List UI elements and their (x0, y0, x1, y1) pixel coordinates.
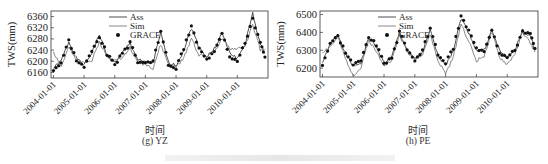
grace-point (72, 51, 75, 54)
grace-point (243, 42, 246, 45)
grace-point (113, 63, 116, 66)
grace-point (408, 51, 411, 54)
grace-point (411, 55, 414, 58)
grace-point (54, 66, 57, 69)
grace-point (249, 25, 252, 28)
grace-point (462, 19, 465, 22)
svg-text:GRACE: GRACE (399, 30, 430, 40)
grace-point (233, 58, 236, 61)
grace-point (151, 59, 154, 62)
grace-point (223, 39, 226, 42)
grace-point (251, 17, 254, 20)
grace-point (260, 45, 263, 48)
grace-point (452, 48, 455, 51)
grace-point (470, 34, 473, 37)
grace-point (85, 59, 88, 62)
y-tick-label: 6200 (296, 63, 317, 74)
svg-text:GRACE: GRACE (130, 30, 161, 40)
chart-panel-yz: 616062006240628063206360TWS(mm)2004-01-0… (0, 0, 274, 150)
grace-point (483, 50, 486, 53)
grace-point (454, 35, 457, 38)
grace-point (385, 62, 388, 65)
grace-point (362, 51, 365, 54)
grace-point (62, 54, 65, 57)
grace-point (475, 46, 478, 49)
grace-point (254, 26, 257, 29)
grace-point (503, 54, 506, 57)
grace-point (118, 54, 121, 57)
grace-point (377, 48, 380, 51)
grace-point (495, 44, 498, 47)
grace-point (493, 35, 496, 38)
grace-point (490, 29, 493, 32)
figure-caption-faint (165, 155, 395, 161)
grace-point (418, 53, 421, 56)
grace-point (498, 52, 501, 55)
grace-point (506, 56, 509, 59)
grace-point (164, 51, 167, 54)
grace-point (406, 48, 409, 51)
y-tick-label: 6360 (27, 11, 48, 22)
grace-point (533, 47, 536, 50)
grace-point (185, 38, 188, 41)
x-axis-label: 时间 (388, 122, 448, 137)
grace-point (508, 53, 511, 56)
grace-point (65, 45, 68, 48)
grace-point (215, 43, 218, 46)
grace-point (334, 36, 337, 39)
grace-point (532, 42, 535, 45)
grace-point (459, 14, 462, 17)
grace-point (200, 50, 203, 53)
grace-point (95, 40, 98, 43)
grace-point (393, 47, 396, 50)
grace-point (103, 45, 106, 48)
grace-point (331, 39, 334, 42)
grace-point (238, 53, 241, 56)
grace-point (321, 64, 324, 67)
grace-point (521, 29, 524, 32)
grace-point (467, 28, 470, 31)
y-tick-label: 6200 (27, 56, 48, 67)
grace-point (364, 43, 367, 46)
grace-point (441, 59, 444, 62)
grace-point (485, 43, 488, 46)
grace-point (190, 24, 193, 27)
grace-point (416, 55, 419, 58)
legend: AssSimGRACE (378, 12, 430, 40)
grace-point (367, 36, 370, 39)
grace-point (488, 36, 491, 39)
grace-point (80, 62, 83, 65)
grace-point (465, 25, 468, 28)
grace-point (380, 55, 383, 58)
grace-point (431, 35, 434, 38)
grace-point (174, 68, 177, 71)
grace-point (403, 42, 406, 45)
y-tick-label: 6400 (296, 27, 317, 38)
chart-panel-pe: 6200630064006500TWS(mm)2004-01-012005-01… (274, 0, 548, 150)
grace-point (347, 55, 350, 58)
grace-point (359, 59, 362, 62)
grace-point (228, 55, 231, 58)
grace-point (449, 50, 452, 53)
grace-point (52, 69, 55, 72)
grace-point (530, 36, 533, 39)
grace-point (439, 56, 442, 59)
grace-point (323, 56, 326, 59)
grace-point (195, 41, 198, 44)
grace-point (121, 52, 124, 55)
grace-point (472, 41, 475, 44)
grace-point (90, 50, 93, 53)
grace-point (180, 52, 183, 55)
grace-point (220, 32, 223, 35)
grace-point (336, 34, 339, 37)
grace-point (516, 43, 519, 46)
grace-point (70, 47, 73, 50)
grace-point (344, 52, 347, 55)
grace-point (259, 41, 262, 44)
grace-point (210, 52, 213, 55)
grace-point (413, 59, 416, 62)
panel-caption: (g) YZ (115, 136, 195, 146)
legend: AssSimGRACE (109, 12, 161, 40)
grace-point (513, 49, 516, 52)
grace-point (436, 54, 439, 57)
